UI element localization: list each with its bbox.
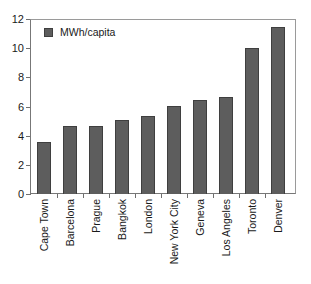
x-tick-label-text: Denver [273, 199, 284, 233]
x-tick-label-los-angeles: Los Angeles [213, 199, 239, 284]
x-tick-label-text: Bangkok [117, 199, 128, 240]
y-tick-label-12: 12 [12, 14, 24, 25]
x-tick-mark-7 [213, 194, 214, 198]
bar-toronto[interactable] [245, 48, 259, 194]
x-tick-label-text: Geneva [195, 199, 206, 236]
bar-slot-los-angeles [213, 20, 239, 194]
bar-slot-toronto [239, 20, 265, 194]
bar-los-angeles[interactable] [219, 97, 233, 194]
x-tick-label-text: London [143, 199, 154, 234]
x-tick-label-text: Los Angeles [221, 199, 232, 256]
bar-slot-london [135, 20, 161, 194]
x-tick-label-text: Cape Town [39, 199, 50, 251]
bar-cape-town[interactable] [37, 142, 51, 194]
bar-bangkok[interactable] [115, 120, 129, 194]
x-tick-mark-4 [135, 194, 136, 198]
x-tick-label-barcelona: Barcelona [57, 199, 83, 284]
x-tick-label-cape-town: Cape Town [31, 199, 57, 284]
x-tick-mark-1 [57, 194, 58, 198]
x-tick-label-new-york-city: New York City [161, 199, 187, 284]
legend-entry-label: MWh/capita [60, 27, 115, 38]
x-tick-label-prague: Prague [83, 199, 109, 284]
bar-slot-bangkok [109, 20, 135, 194]
y-tick-label-8: 8 [18, 72, 24, 83]
x-tick-mark-8 [239, 194, 240, 198]
bar-slot-denver [265, 20, 291, 194]
x-tick-mark-3 [109, 194, 110, 198]
x-tick-mark-2 [83, 194, 84, 198]
bars-layer [31, 20, 295, 194]
x-tick-mark-6 [187, 194, 188, 198]
y-tick-label-10: 10 [12, 43, 24, 54]
legend: MWh/capita [44, 27, 115, 38]
x-tick-label-bangkok: Bangkok [109, 199, 135, 284]
bar-new-york-city[interactable] [167, 106, 181, 194]
bar-slot-prague [83, 20, 109, 194]
bar-london[interactable] [141, 116, 155, 194]
bar-barcelona[interactable] [63, 126, 77, 194]
y-tick-label-0: 0 [18, 189, 24, 200]
y-tick-label-2: 2 [18, 159, 24, 170]
x-tick-mark-9 [265, 194, 266, 198]
x-tick-label-text: New York City [169, 199, 180, 264]
y-axis: 0 2 4 6 8 10 12 [0, 19, 24, 194]
y-tick-label-4: 4 [18, 130, 24, 141]
bar-slot-new-york-city [161, 20, 187, 194]
legend-swatch-square-icon [44, 28, 53, 37]
x-tick-mark-5 [161, 194, 162, 198]
bar-geneva[interactable] [193, 100, 207, 194]
x-tick-label-text: Barcelona [65, 199, 76, 246]
x-tick-label-geneva: Geneva [187, 199, 213, 284]
bar-denver[interactable] [271, 27, 285, 194]
y-tick-label-6: 6 [18, 101, 24, 112]
x-tick-label-text: Toronto [247, 199, 258, 234]
bar-prague[interactable] [89, 126, 103, 194]
x-tick-label-text: Prague [91, 199, 102, 233]
bar-slot-geneva [187, 20, 213, 194]
bar-slot-barcelona [57, 20, 83, 194]
x-tick-label-london: London [135, 199, 161, 284]
bar-slot-cape-town [31, 20, 57, 194]
x-tick-label-denver: Denver [265, 199, 291, 284]
bar-chart-figure: 0 2 4 6 8 10 12 [0, 0, 311, 284]
x-tick-label-toronto: Toronto [239, 199, 265, 284]
x-axis: Cape Town Barcelona Prague Bangkok Londo… [31, 199, 295, 284]
